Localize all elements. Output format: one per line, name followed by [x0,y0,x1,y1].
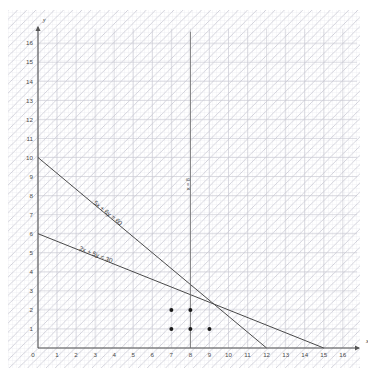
x-tick-11: 11 [244,351,251,358]
x-tick-14: 14 [301,351,308,358]
y-tick-16: 16 [26,39,33,46]
y-tick-7: 7 [30,211,34,218]
y-tick-9: 9 [30,173,34,180]
label-x-8: x = 8 [185,178,191,190]
y-tick-4: 4 [30,268,34,275]
y-tick-8: 8 [30,192,34,199]
y-tick-11: 11 [27,135,34,142]
point-8-1 [188,327,192,331]
y-tick-13: 13 [26,97,33,104]
x-tick-12: 12 [263,351,270,358]
x-tick-6: 6 [151,351,155,358]
x-tick-13: 13 [282,351,289,358]
x-tick-10: 10 [225,351,232,358]
x-tick-1: 1 [55,351,59,358]
x-tick-2: 2 [74,351,78,358]
y-tick-15: 15 [26,58,33,65]
x-tick-9: 9 [208,351,212,358]
plot-svg: 012345678910111213141516 123456789101112… [0,0,368,377]
chart-background [8,10,360,368]
point-7-2 [169,308,173,312]
y-axis-label: y [42,17,46,23]
graph-canvas: 012345678910111213141516 123456789101112… [0,0,368,377]
y-tick-10: 10 [26,154,33,161]
y-tick-3: 3 [30,287,34,294]
point-8-2 [188,308,192,312]
x-tick-0: 0 [31,351,35,358]
point-9-1 [207,327,211,331]
x-tick-16: 16 [339,351,346,358]
y-tick-6: 6 [30,230,34,237]
y-tick-1: 1 [30,325,34,332]
x-tick-3: 3 [93,351,97,358]
x-tick-15: 15 [320,351,327,358]
x-tick-7: 7 [170,351,174,358]
point-7-1 [169,327,173,331]
y-tick-12: 12 [26,116,33,123]
x-tick-4: 4 [112,351,116,358]
y-tick-2: 2 [30,306,34,313]
y-tick-14: 14 [26,78,33,85]
x-tick-5: 5 [132,351,136,358]
y-tick-5: 5 [30,249,34,256]
x-tick-8: 8 [189,351,193,358]
